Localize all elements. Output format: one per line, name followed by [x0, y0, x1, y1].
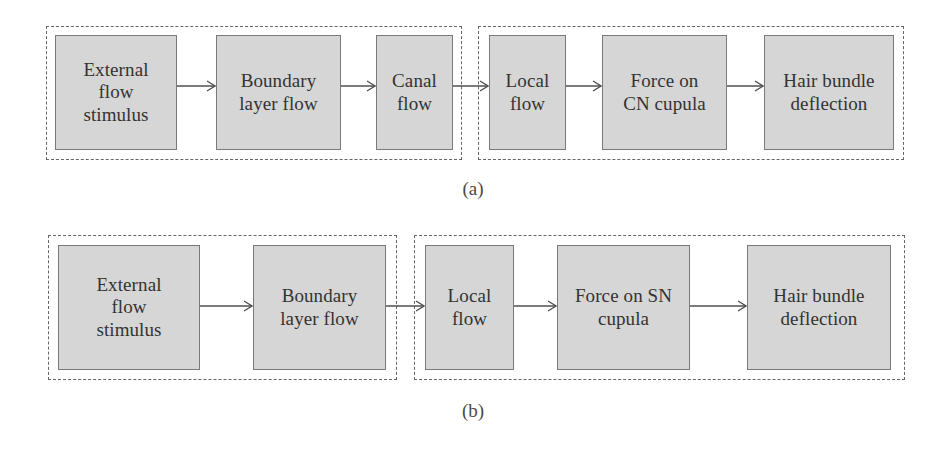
box-label: Boundary layer flow: [235, 70, 322, 115]
box-label: Hair bundle deflection: [779, 70, 878, 115]
panel-b-box-force-on-sn-cupula: Force on SN cupula: [557, 245, 690, 370]
box-label: Force on SN cupula: [571, 285, 676, 330]
block-flow-figure: External flow stimulusBoundary layer flo…: [0, 0, 943, 458]
panel-a-box-local-flow: Local flow: [489, 35, 566, 150]
panel-b-box-boundary-layer-flow: Boundary layer flow: [253, 245, 386, 370]
box-label: Local flow: [444, 285, 496, 330]
panel-a-box-boundary-layer-flow: Boundary layer flow: [216, 35, 341, 150]
panel-b-box-external-flow-stimulus: External flow stimulus: [58, 245, 200, 370]
box-label: External flow stimulus: [92, 274, 165, 341]
panel-a-box-hair-bundle-deflection: Hair bundle deflection: [764, 35, 894, 150]
panel-b-box-hair-bundle-deflection: Hair bundle deflection: [747, 245, 891, 370]
panel-caption-b: (b): [443, 400, 503, 422]
panel-a-box-canal-flow: Canal flow: [376, 35, 453, 150]
panel-caption-a: (a): [443, 178, 503, 200]
box-label: Local flow: [502, 70, 554, 115]
panel-a-box-external-flow-stimulus: External flow stimulus: [55, 35, 177, 150]
panel-a-box-force-on-cn-cupula: Force on CN cupula: [602, 35, 727, 150]
panel-b-box-local-flow: Local flow: [425, 245, 514, 370]
box-label: Boundary layer flow: [276, 285, 363, 330]
box-label: External flow stimulus: [79, 59, 152, 126]
box-label: Hair bundle deflection: [769, 285, 868, 330]
box-label: Canal flow: [388, 70, 441, 115]
box-label: Force on CN cupula: [619, 70, 710, 115]
